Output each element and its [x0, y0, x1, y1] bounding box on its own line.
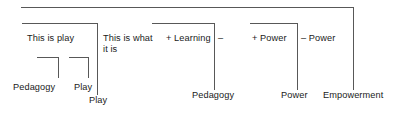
power-group-bracket-horizontal — [250, 23, 297, 24]
left-group-bracket-horizontal — [22, 23, 97, 24]
power-group-bracket-drop — [297, 23, 298, 90]
pedagogy-left-bracket-horizontal — [37, 57, 58, 58]
pedagogy-left-bracket-drop — [58, 57, 59, 78]
node-this-is-play: This is play — [27, 33, 74, 44]
node-minus-power: – Power — [301, 33, 335, 44]
bracket-diagram: This is play This is what it is + Learni… — [0, 0, 397, 115]
node-this-is-what-it-is: This is what it is — [103, 33, 153, 55]
play-left-bracket-horizontal — [69, 57, 88, 58]
node-power: Power — [281, 90, 308, 101]
middle-group-bracket-horizontal — [152, 23, 214, 24]
top-bracket-horizontal — [21, 7, 353, 8]
node-play-left: Play — [74, 82, 92, 93]
node-play-lower: Play — [89, 95, 107, 106]
node-plus-learning: + Learning — [166, 33, 211, 44]
node-plus-power: + Power — [252, 33, 287, 44]
node-pedagogy-left: Pedagogy — [13, 82, 55, 93]
middle-group-bracket-drop — [214, 23, 215, 90]
node-empowerment: Empowerment — [323, 90, 383, 101]
node-minus-learning: – — [218, 33, 223, 44]
node-pedagogy-mid: Pedagogy — [192, 90, 234, 101]
play-left-bracket-drop — [88, 57, 89, 78]
top-bracket-right-drop — [353, 7, 354, 90]
left-group-bracket-drop — [97, 23, 98, 95]
